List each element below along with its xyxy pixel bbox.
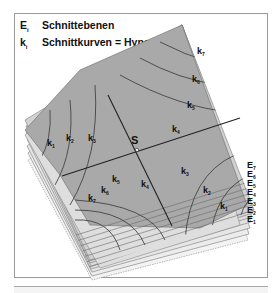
center-point [135, 148, 138, 151]
label-k7-top: k7 [197, 46, 205, 57]
center-label-s: S [131, 134, 138, 146]
plane-labels: E7 E6 E5 E4 E3 E2 E1 [247, 160, 256, 225]
